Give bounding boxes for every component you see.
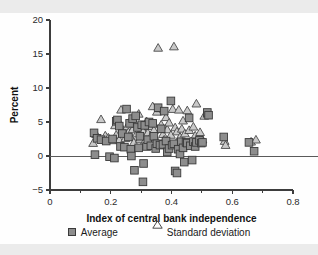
data-point-average [185, 114, 193, 122]
data-point-average [157, 125, 165, 133]
data-point-average [167, 97, 175, 105]
figure-container: −50510152000.20.40.60.8 Index of central… [0, 0, 318, 255]
data-point-average [131, 166, 139, 174]
data-point-average [199, 139, 207, 147]
axis-ticks-group [46, 20, 293, 194]
legend-label-average: Average [81, 227, 118, 238]
data-point-average [132, 112, 140, 120]
data-point-average [180, 158, 188, 166]
data-point-standard-deviation [154, 44, 163, 52]
chart-legend: Average Standard deviation [0, 222, 318, 242]
data-point-average [220, 133, 228, 141]
data-point-average [173, 169, 181, 177]
y-axis-tick-label: 0 [38, 150, 43, 161]
data-point-average [188, 156, 196, 164]
legend-square-marker-icon [68, 228, 76, 236]
legend-triangle-marker-icon [152, 228, 162, 236]
data-point-average [149, 120, 157, 128]
data-point-average [111, 154, 119, 162]
data-point-average [91, 151, 99, 159]
data-point-standard-deviation [170, 42, 179, 50]
x-axis-tick-label: 0.8 [286, 196, 299, 207]
data-point-average [135, 144, 143, 152]
data-point-standard-deviation [192, 99, 201, 107]
data-point-average [245, 139, 253, 147]
data-point-average [136, 132, 144, 140]
series-standard-deviation-markers [89, 42, 261, 148]
data-point-standard-deviation [189, 122, 198, 130]
y-axis-tick-label: 5 [38, 116, 43, 127]
data-point-average [150, 132, 158, 140]
x-axis-tick-label: 0.2 [104, 196, 117, 207]
data-point-average [125, 133, 133, 141]
data-point-average [123, 105, 131, 113]
y-axis-title: Percent [9, 86, 20, 123]
data-point-average [140, 160, 148, 168]
legend-item-average: Average [68, 227, 118, 238]
y-axis-tick-label: 20 [32, 14, 43, 25]
x-axis-tick-label: 0.4 [165, 196, 178, 207]
data-point-average [139, 178, 147, 186]
legend-item-standard-deviation: Standard deviation [152, 227, 250, 238]
legend-label-standard-deviation: Standard deviation [167, 227, 250, 238]
data-point-standard-deviation [183, 106, 192, 114]
scatter-chart: −50510152000.20.40.60.8 Index of central… [0, 0, 318, 255]
data-point-average [250, 147, 258, 155]
data-point-average [160, 107, 168, 115]
data-point-average [128, 152, 136, 160]
y-axis-tick-label: 10 [32, 82, 43, 93]
data-point-standard-deviation [97, 115, 106, 123]
x-axis-tick-label: 0 [47, 196, 52, 207]
y-axis-tick-label: 15 [32, 48, 43, 59]
x-axis-tick-label: 0.6 [226, 196, 239, 207]
data-point-average [205, 111, 213, 119]
y-axis-tick-label: −5 [32, 184, 43, 195]
data-point-average [109, 135, 117, 143]
data-point-average [115, 122, 123, 130]
